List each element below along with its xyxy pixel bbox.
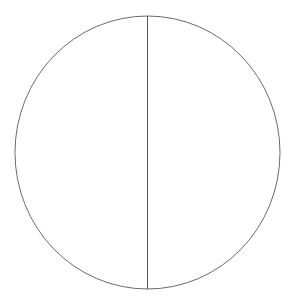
diagram-canvas [0,0,293,306]
